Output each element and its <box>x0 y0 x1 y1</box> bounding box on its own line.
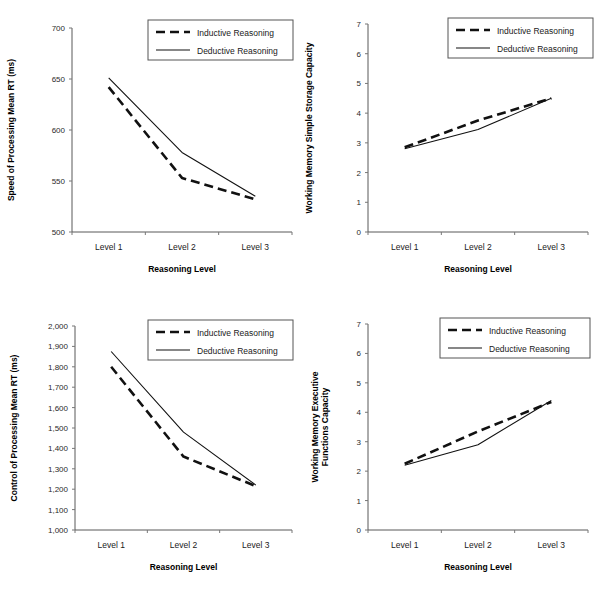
x-category-label: Level 2 <box>170 540 198 550</box>
y-tick-label: 1,200 <box>48 485 69 494</box>
y-axis-title: Speed of Processing Mean RT (ms) <box>6 59 16 201</box>
x-category-label: Level 1 <box>97 540 125 550</box>
legend-label: Deductive Reasoning <box>197 46 278 56</box>
x-axis-title: Reasoning Level <box>444 562 512 572</box>
legend-label: Inductive Reasoning <box>197 328 274 338</box>
x-category-label: Level 2 <box>168 242 196 252</box>
y-tick-label: 3 <box>357 139 362 148</box>
y-axis-title: Control of Processing Mean RT (ms) <box>9 354 19 501</box>
x-category-label: Level 3 <box>242 242 270 252</box>
figure-multi-panel-line-charts: 500550600650700Level 1Level 2Level 3Reas… <box>0 0 605 601</box>
legend-label: Inductive Reasoning <box>197 28 274 38</box>
y-tick-label: 6 <box>357 349 362 358</box>
y-tick-label: 700 <box>52 24 66 33</box>
y-tick-label: 1,400 <box>48 444 69 453</box>
chart-panel-control-of-processing: 1,0001,1001,2001,3001,4001,5001,6001,700… <box>0 300 305 601</box>
y-tick-label: 7 <box>357 20 362 29</box>
legend-label: Deductive Reasoning <box>197 346 278 356</box>
y-tick-label: 4 <box>357 109 362 118</box>
series-line-deductive <box>405 401 552 466</box>
chart-panel-speed-of-processing: 500550600650700Level 1Level 2Level 3Reas… <box>0 0 305 300</box>
legend: Inductive ReasoningDeductive Reasoning <box>448 18 593 58</box>
series-line-inductive <box>405 98 552 147</box>
y-tick-label: 4 <box>357 408 362 417</box>
x-axis-title: Reasoning Level <box>150 562 218 572</box>
x-category-label: Level 3 <box>538 540 566 550</box>
x-category-label: Level 1 <box>391 242 419 252</box>
series-line-inductive <box>405 402 552 464</box>
y-tick-label: 5 <box>357 379 362 388</box>
chart-panel-wm-simple-storage-capacity: 01234567Level 1Level 2Level 3Reasoning L… <box>300 0 605 300</box>
y-tick-label: 550 <box>52 177 66 186</box>
x-category-label: Level 2 <box>464 540 492 550</box>
y-tick-label: 3 <box>357 438 362 447</box>
y-tick-label: 1,500 <box>48 424 69 433</box>
y-tick-label: 1,300 <box>48 465 69 474</box>
y-tick-label: 1,800 <box>48 363 69 372</box>
y-tick-label: 500 <box>52 228 66 237</box>
x-axis-title: Reasoning Level <box>148 264 216 274</box>
legend: Inductive ReasoningDeductive Reasoning <box>148 20 293 60</box>
x-category-label: Level 3 <box>242 540 270 550</box>
y-tick-label: 1,600 <box>48 404 69 413</box>
y-tick-label: 6 <box>357 50 362 59</box>
y-tick-label: 1 <box>357 497 362 506</box>
legend-label: Inductive Reasoning <box>489 326 566 336</box>
y-tick-label: 0 <box>357 526 362 535</box>
y-tick-label: 2 <box>357 467 362 476</box>
chart-svg: 500550600650700Level 1Level 2Level 3Reas… <box>0 0 305 300</box>
legend-label: Inductive Reasoning <box>497 26 574 36</box>
legend: Inductive ReasoningDeductive Reasoning <box>148 320 293 360</box>
y-tick-label: 2 <box>357 169 362 178</box>
y-axis-title: Working Memory ExecutiveFunctions Capaci… <box>310 371 330 482</box>
y-tick-label: 7 <box>357 320 362 329</box>
legend-label: Deductive Reasoning <box>497 44 578 54</box>
y-tick-label: 5 <box>357 79 362 88</box>
x-category-label: Level 2 <box>464 242 492 252</box>
x-category-label: Level 3 <box>538 242 566 252</box>
y-tick-label: 1,900 <box>48 342 69 351</box>
y-axis-title: Working Memory Simple Storage Capacity <box>304 42 314 213</box>
legend-label: Deductive Reasoning <box>489 344 570 354</box>
series-line-inductive <box>111 367 256 486</box>
y-tick-label: 1 <box>357 198 362 207</box>
y-tick-label: 650 <box>52 75 66 84</box>
chart-svg: 01234567Level 1Level 2Level 3Reasoning L… <box>300 300 605 601</box>
y-tick-label: 1,000 <box>48 526 69 535</box>
y-tick-label: 0 <box>357 228 362 237</box>
chart-svg: 1,0001,1001,2001,3001,4001,5001,6001,700… <box>0 300 305 601</box>
chart-svg: 01234567Level 1Level 2Level 3Reasoning L… <box>300 0 605 300</box>
x-axis-title: Reasoning Level <box>444 264 512 274</box>
x-category-label: Level 1 <box>95 242 123 252</box>
x-category-label: Level 1 <box>391 540 419 550</box>
y-axis-title-line: Functions Capacity <box>320 388 330 467</box>
y-tick-label: 1,700 <box>48 383 69 392</box>
chart-panel-wm-executive-functions-capacity: 01234567Level 1Level 2Level 3Reasoning L… <box>300 300 605 601</box>
y-tick-label: 1,100 <box>48 506 69 515</box>
legend: Inductive ReasoningDeductive Reasoning <box>440 318 590 358</box>
series-line-deductive <box>111 352 256 486</box>
y-axis-title-line: Working Memory Executive <box>310 371 320 482</box>
y-tick-label: 2,000 <box>48 322 69 331</box>
y-tick-label: 600 <box>52 126 66 135</box>
